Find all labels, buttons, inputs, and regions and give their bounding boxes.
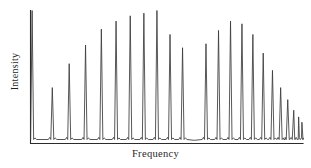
spectrum-figure: Intensity Frequency [0,0,311,168]
trace-group [31,11,304,141]
spectrum-plot [0,0,311,168]
x-axis-label: Frequency [0,148,311,159]
y-axis-label-container: Intensity [6,0,24,143]
spectrum-trace [31,11,304,141]
y-axis-label: Intensity [10,53,21,91]
